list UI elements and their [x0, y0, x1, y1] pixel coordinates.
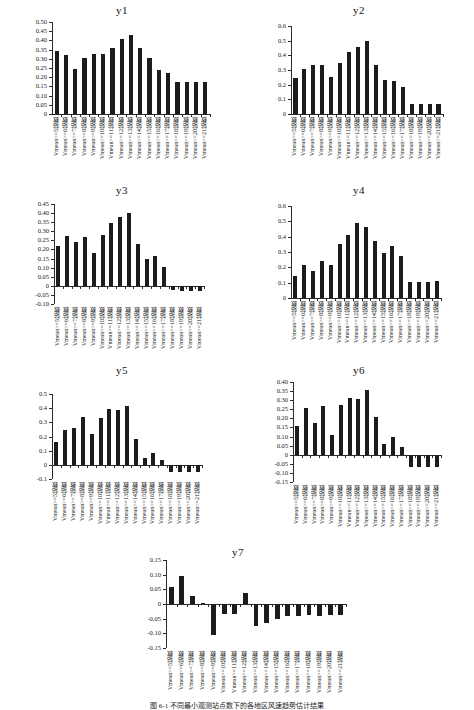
bar-y5-12[interactable]: [160, 460, 164, 465]
bar-y4-14[interactable]: [417, 282, 421, 298]
bar-y7-9[interactable]: [264, 604, 269, 623]
bar-y2-10[interactable]: [383, 80, 387, 114]
bar-y1-9[interactable]: [138, 48, 142, 114]
bar-y1-13[interactable]: [175, 82, 179, 114]
bar-y6-9[interactable]: [374, 417, 378, 454]
bar-y2-1[interactable]: [302, 69, 306, 114]
bar-y3-15[interactable]: [189, 286, 193, 291]
bar-y7-1[interactable]: [179, 576, 184, 604]
bar-y7-0[interactable]: [169, 587, 174, 604]
bar-y6-15[interactable]: [426, 455, 430, 468]
bar-y2-9[interactable]: [374, 65, 378, 114]
bar-y3-10[interactable]: [145, 259, 149, 286]
bar-y6-0[interactable]: [295, 426, 299, 455]
bar-y7-13[interactable]: [307, 604, 312, 615]
bar-y5-1[interactable]: [63, 430, 67, 465]
bar-y5-15[interactable]: [187, 465, 191, 472]
bar-y1-1[interactable]: [64, 55, 68, 114]
bar-y5-11[interactable]: [151, 453, 155, 465]
bar-y7-8[interactable]: [254, 604, 259, 626]
bar-y1-7[interactable]: [120, 39, 124, 114]
bar-y1-14[interactable]: [185, 82, 189, 114]
bar-y4-9[interactable]: [373, 241, 377, 298]
bar-y7-4[interactable]: [211, 604, 216, 635]
bar-y6-11[interactable]: [391, 437, 395, 454]
bar-y5-10[interactable]: [143, 458, 147, 465]
bar-y2-13[interactable]: [410, 104, 414, 114]
bar-y7-5[interactable]: [222, 604, 227, 614]
bar-y3-7[interactable]: [118, 217, 122, 286]
bar-y3-3[interactable]: [83, 237, 87, 286]
bar-y3-13[interactable]: [171, 286, 175, 290]
bar-y2-0[interactable]: [293, 78, 297, 114]
bar-y4-5[interactable]: [338, 244, 342, 298]
bar-y4-11[interactable]: [390, 246, 394, 298]
bar-y3-9[interactable]: [136, 244, 140, 286]
bar-y4-4[interactable]: [329, 265, 333, 298]
bar-y6-12[interactable]: [400, 447, 404, 454]
bar-y6-4[interactable]: [330, 435, 334, 455]
bar-y3-0[interactable]: [56, 246, 60, 285]
bar-y2-16[interactable]: [436, 104, 440, 114]
bar-y3-16[interactable]: [198, 286, 202, 291]
bar-y4-13[interactable]: [408, 282, 412, 298]
bar-y4-2[interactable]: [311, 271, 315, 298]
bar-y4-10[interactable]: [382, 253, 386, 298]
bar-y5-9[interactable]: [134, 439, 138, 465]
bar-y6-7[interactable]: [356, 399, 360, 455]
bar-y4-7[interactable]: [355, 223, 359, 298]
bar-y3-11[interactable]: [153, 256, 157, 286]
bar-y1-5[interactable]: [101, 54, 105, 114]
bar-y2-11[interactable]: [392, 81, 396, 114]
bar-y6-3[interactable]: [321, 406, 325, 455]
bar-y1-2[interactable]: [73, 69, 77, 114]
bar-y6-5[interactable]: [339, 405, 343, 454]
bar-y1-16[interactable]: [203, 82, 207, 114]
bar-y6-14[interactable]: [417, 455, 421, 468]
bar-y4-1[interactable]: [302, 265, 306, 298]
bar-y6-2[interactable]: [313, 423, 317, 455]
bar-y2-2[interactable]: [311, 65, 315, 114]
bar-y3-12[interactable]: [162, 267, 166, 286]
bar-y7-7[interactable]: [243, 593, 248, 604]
bar-y4-6[interactable]: [346, 235, 350, 298]
bar-y7-12[interactable]: [296, 604, 301, 616]
bar-y1-3[interactable]: [82, 58, 86, 114]
bar-y1-11[interactable]: [157, 70, 161, 114]
bar-y1-12[interactable]: [166, 73, 170, 114]
bar-y6-10[interactable]: [382, 444, 386, 455]
bar-y2-7[interactable]: [356, 47, 360, 114]
bar-y5-14[interactable]: [178, 465, 182, 472]
bar-y1-6[interactable]: [110, 48, 114, 114]
bar-y4-0[interactable]: [293, 276, 297, 298]
bar-y7-14[interactable]: [317, 604, 322, 616]
bar-y6-1[interactable]: [304, 408, 308, 455]
bar-y1-8[interactable]: [129, 35, 133, 114]
bar-y1-15[interactable]: [194, 82, 198, 114]
bar-y5-6[interactable]: [107, 409, 111, 465]
bar-y2-15[interactable]: [428, 104, 432, 114]
bar-y2-3[interactable]: [320, 65, 324, 114]
bar-y3-6[interactable]: [109, 223, 113, 286]
bar-y2-8[interactable]: [365, 41, 369, 114]
bar-y3-1[interactable]: [65, 236, 69, 285]
bar-y7-16[interactable]: [338, 604, 343, 615]
bar-y3-2[interactable]: [74, 242, 78, 286]
bar-y5-5[interactable]: [99, 418, 103, 465]
bar-y4-8[interactable]: [364, 227, 368, 298]
bar-y6-13[interactable]: [409, 455, 413, 468]
bar-y6-6[interactable]: [348, 398, 352, 455]
bar-y5-8[interactable]: [125, 406, 129, 465]
bar-y3-8[interactable]: [127, 213, 131, 286]
bar-y4-15[interactable]: [426, 282, 430, 298]
bar-y7-15[interactable]: [328, 604, 333, 615]
bar-y7-11[interactable]: [285, 604, 290, 616]
bar-y1-4[interactable]: [92, 54, 96, 114]
bar-y2-5[interactable]: [338, 63, 342, 114]
bar-y6-8[interactable]: [365, 390, 369, 455]
bar-y1-0[interactable]: [55, 51, 59, 114]
bar-y5-7[interactable]: [116, 410, 120, 465]
bar-y5-2[interactable]: [72, 428, 76, 465]
bar-y2-12[interactable]: [401, 87, 405, 114]
bar-y4-16[interactable]: [435, 281, 439, 298]
